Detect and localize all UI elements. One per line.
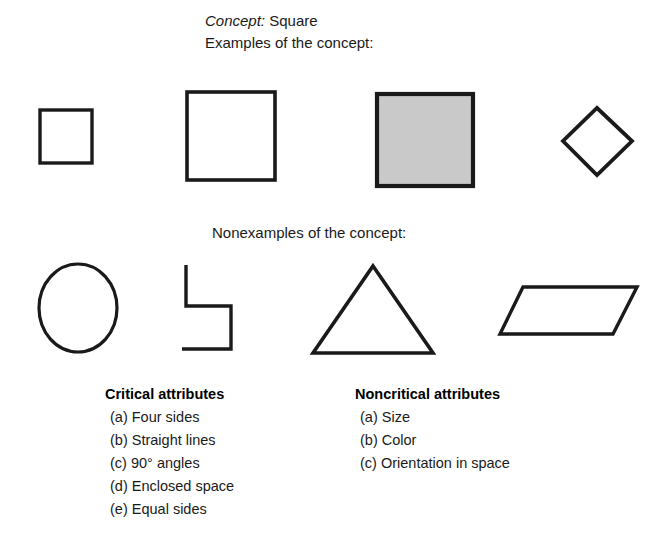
- critical-attributes-list: (a) Four sides (b) Straight lines (c) 90…: [105, 406, 234, 521]
- nonexample-open-figure: [182, 265, 231, 349]
- nonexample-circle: [39, 264, 117, 352]
- example-gray-square: [377, 94, 473, 186]
- example-large-square: [187, 92, 275, 180]
- list-item-text: 90° angles: [131, 455, 200, 471]
- list-item-text: Enclosed space: [132, 478, 234, 494]
- list-item-text: Size: [382, 409, 410, 425]
- list-item-marker: (c): [360, 455, 377, 471]
- noncritical-attributes-column: Noncritical attributes (a) Size (b) Colo…: [355, 383, 510, 475]
- example-rotated-square-diamond: [563, 108, 632, 175]
- list-item: (b) Straight lines: [110, 429, 234, 452]
- list-item-text: Straight lines: [132, 432, 216, 448]
- list-item-marker: (a): [360, 409, 378, 425]
- critical-attributes-column: Critical attributes (a) Four sides (b) S…: [105, 383, 234, 521]
- list-item-text: Four sides: [132, 409, 200, 425]
- list-item-text: Orientation in space: [381, 455, 510, 471]
- nonexample-triangle: [313, 266, 433, 353]
- list-item-text: Equal sides: [132, 501, 207, 517]
- shapes-layer: [0, 0, 652, 553]
- list-item: (e) Equal sides: [110, 498, 234, 521]
- list-item-marker: (c): [110, 455, 127, 471]
- list-item-marker: (b): [360, 432, 378, 448]
- list-item: (a) Size: [360, 406, 510, 429]
- critical-attributes-title: Critical attributes: [105, 383, 234, 406]
- concept-diagram-canvas: Concept: Square Examples of the concept:…: [0, 0, 652, 553]
- list-item-text: Color: [382, 432, 417, 448]
- list-item: (b) Color: [360, 429, 510, 452]
- list-item-marker: (d): [110, 478, 128, 494]
- noncritical-attributes-title: Noncritical attributes: [355, 383, 510, 406]
- list-item-marker: (a): [110, 409, 128, 425]
- example-small-square: [40, 110, 92, 163]
- list-item-marker: (b): [110, 432, 128, 448]
- list-item-marker: (e): [110, 501, 128, 517]
- list-item: (c) Orientation in space: [360, 452, 510, 475]
- noncritical-attributes-list: (a) Size (b) Color (c) Orientation in sp…: [355, 406, 510, 475]
- list-item: (a) Four sides: [110, 406, 234, 429]
- nonexample-parallelogram: [500, 287, 637, 334]
- list-item: (d) Enclosed space: [110, 475, 234, 498]
- list-item: (c) 90° angles: [110, 452, 234, 475]
